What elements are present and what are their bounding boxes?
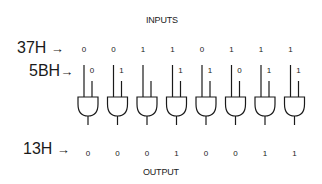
and-gate-icon	[108, 97, 128, 116]
and-gate-icon	[255, 97, 275, 116]
and-gate-icon	[137, 97, 157, 116]
and-gates-diagram	[0, 0, 322, 184]
and-gate-icon	[196, 97, 216, 116]
and-gate-icon	[226, 97, 246, 116]
output-title: OUTPUT	[143, 167, 179, 177]
and-gate-icon	[285, 97, 305, 116]
and-gate-icon	[78, 97, 98, 116]
and-gate-icon	[167, 97, 187, 116]
